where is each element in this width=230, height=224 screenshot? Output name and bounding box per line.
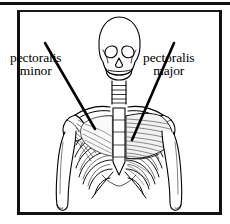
pectoralis-major-left-muscle: [81, 116, 112, 156]
eye-socket-right: [122, 46, 134, 58]
humerus-right: [162, 131, 182, 210]
frame-top-outer-rule: [0, 2, 230, 5]
frame-right-rule: [219, 10, 222, 215]
costal-margin: [102, 175, 136, 186]
eye-socket-left: [105, 46, 117, 58]
anatomy-figure: pectoralis minor pectoralis major: [0, 0, 230, 224]
label-pectoralis-minor: pectoralis minor: [10, 51, 61, 77]
cervical-vertebrae: [112, 81, 126, 104]
sternum: [113, 108, 125, 175]
skeleton-illustration: [20, 12, 219, 212]
label-pectoralis-major: pectoralis major: [143, 51, 194, 77]
label-pectoralis-major-line2: major: [143, 64, 194, 77]
label-pectoralis-minor-line2: minor: [10, 64, 61, 77]
humerus-left: [56, 131, 76, 210]
frame-bottom-rule: [17, 212, 222, 215]
